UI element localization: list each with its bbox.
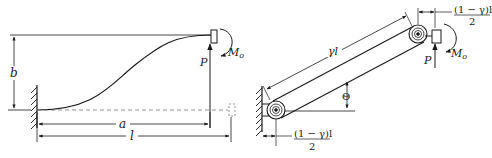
- label-p-left: P: [199, 56, 208, 69]
- deflected-beam-curve: [37, 35, 211, 110]
- label-p-right: P: [423, 54, 432, 67]
- right-panel: [256, 8, 456, 146]
- torsional-spring-upper-icon: [409, 25, 427, 43]
- label-theta: Θ: [342, 91, 350, 102]
- diagram-canvas: b a l P Mo: [0, 0, 492, 158]
- fraction-bottom-denominator: 2: [309, 141, 315, 152]
- fraction-top-denominator: 2: [469, 16, 475, 27]
- label-l: l: [130, 129, 134, 143]
- fraction-top-numerator: (1 − γ)l: [454, 4, 492, 15]
- end-block: [211, 30, 217, 43]
- label-a: a: [119, 117, 126, 131]
- fraction-bottom: (1 − γ)l 2: [294, 128, 332, 152]
- torsional-spring-lower-icon: [267, 101, 285, 119]
- undeflected-end-block: [229, 104, 235, 116]
- rigid-link-top-edge: [273, 26, 414, 101]
- label-b: b: [10, 66, 18, 80]
- label-m-left: Mo: [227, 46, 244, 60]
- label-gamma-l: γl: [328, 45, 339, 58]
- fraction-bottom-numerator: (1 − γ)l: [294, 128, 332, 139]
- fraction-top: (1 − γ)l 2: [454, 4, 492, 27]
- label-m-right: Mo: [450, 47, 467, 61]
- end-block: [432, 30, 441, 43]
- rigid-link-bottom-edge: [281, 42, 424, 118]
- fixed-wall-icon: [31, 85, 37, 129]
